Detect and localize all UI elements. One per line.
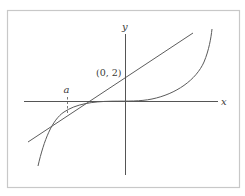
x-axis-label: x [221,96,227,107]
function-diagram: x y a (0, 2) [0,0,245,196]
y-axis-label: y [121,21,128,32]
tangent-point-label: a [64,84,70,95]
figure-frame [8,11,240,188]
y-intercept-label: (0, 2) [96,67,122,78]
